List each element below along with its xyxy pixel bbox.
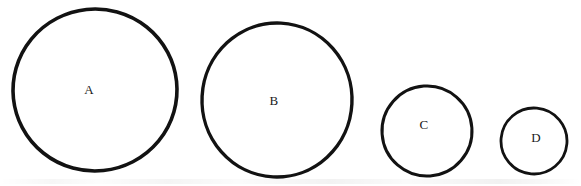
figure-canvas: A B C D [0,0,581,186]
circle-c-label: C [420,118,429,131]
circle-a-label: A [84,83,94,96]
circle-a-outline [5,1,185,179]
circle-b-label: B [270,94,279,107]
circle-d-label: D [531,131,541,144]
